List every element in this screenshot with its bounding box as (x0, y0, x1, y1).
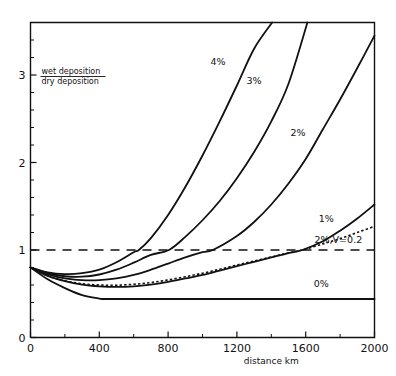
curve-label-1: 1% (319, 213, 334, 224)
data-curves (31, 23, 375, 300)
y-tick-label: 2 (19, 157, 26, 170)
y-tick-label: 0 (19, 332, 26, 345)
curve-3 (31, 23, 308, 277)
x-tick-label: 800 (158, 342, 179, 355)
curve-label-2: 2% (290, 127, 305, 138)
deposition-ratio-line-chart: 0400800120016002000 0123 4%3%2%1%2%,V=0.… (0, 0, 396, 376)
x-tick-label: 0 (27, 342, 34, 355)
curve-label-4: 4% (210, 56, 225, 67)
y-axis-ticks (31, 40, 37, 338)
x-axis-tick-labels: 0400800120016002000 (27, 342, 389, 355)
x-tick-label: 2000 (361, 342, 389, 355)
chart-figure: 0400800120016002000 0123 4%3%2%1%2%,V=0.… (0, 0, 396, 376)
y-axis-label-denominator: dry deposition (42, 77, 99, 86)
x-axis-ticks (31, 332, 375, 338)
curve-label-2-v-0-2: 2%,V=0.2 (315, 234, 363, 245)
x-tick-label: 400 (89, 342, 110, 355)
y-tick-label: 1 (19, 244, 26, 257)
x-tick-label: 1600 (292, 342, 320, 355)
curve-label-0: 0% (314, 278, 329, 289)
y-axis-label-group: wet deposition dry deposition (41, 67, 106, 86)
y-axis-label-numerator: wet deposition (42, 67, 101, 76)
x-tick-label: 1200 (223, 342, 251, 355)
y-tick-label: 3 (19, 69, 26, 82)
curve-label-3: 3% (247, 75, 262, 86)
y-axis-tick-labels: 0123 (19, 69, 26, 345)
x-axis-label: distance km (244, 356, 299, 366)
